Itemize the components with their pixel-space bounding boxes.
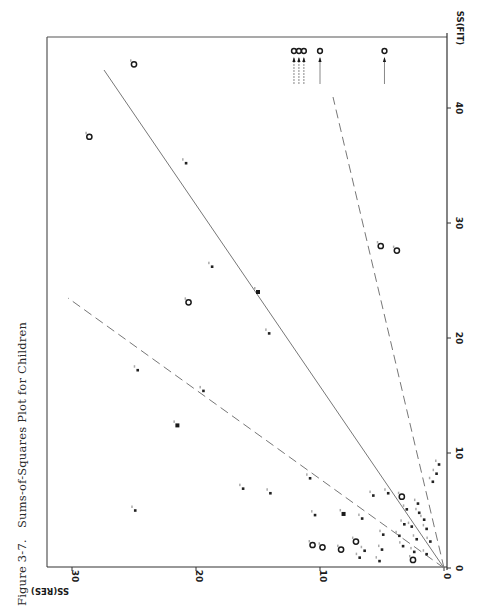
data-point: [438, 463, 441, 466]
svg-text:20: 20: [454, 332, 464, 345]
svg-text:10: 10: [454, 447, 464, 460]
point-label-mark: [358, 514, 360, 517]
y-tick-30: 30: [70, 567, 80, 582]
off-scale-point: [318, 49, 323, 84]
y-axis: 0 10 20 30 SS(RES): [31, 567, 452, 596]
data-point: [136, 369, 139, 372]
point-label-mark: [356, 553, 358, 556]
off-scale-points: [292, 49, 387, 84]
point-label-mark: [266, 488, 268, 491]
point-label-mark: [376, 556, 378, 559]
data-point: [361, 517, 364, 520]
point-label-mark: [173, 420, 175, 423]
arrow-up-icon: [297, 57, 300, 62]
data-point: [398, 535, 401, 538]
data-point: [87, 134, 92, 139]
point-label-mark: [420, 515, 422, 518]
data-point: [309, 477, 312, 480]
arrow-up-icon: [318, 57, 321, 62]
svg-text:0: 0: [454, 565, 464, 571]
point-label-mark: [378, 545, 380, 548]
arrow-up-icon: [302, 57, 305, 62]
plot-frame: [47, 33, 447, 570]
point-label-mark: [423, 524, 425, 527]
data-point: [363, 549, 366, 552]
data-point: [432, 480, 435, 483]
data-point: [410, 557, 415, 562]
off-scale-point: [292, 49, 297, 84]
data-point: [382, 533, 385, 536]
point-label-mark: [400, 519, 402, 522]
x-axis-title: SS(FIT): [455, 11, 465, 46]
point-label-mark: [239, 484, 241, 487]
point-label-mark: [410, 547, 412, 550]
data-point: [310, 542, 315, 547]
point-label-mark: [311, 510, 313, 512]
data-point: [320, 545, 325, 550]
data-point: [378, 243, 383, 248]
point-label-mark: [408, 522, 410, 525]
point-label-mark: [254, 287, 256, 290]
data-point: [202, 390, 205, 393]
point-label-mark: [85, 132, 87, 135]
point-label-mark: [369, 491, 371, 494]
point-label-mark: [403, 504, 405, 507]
point-label-mark: [199, 386, 201, 389]
point-label-mark: [413, 534, 415, 537]
data-point: [268, 332, 271, 335]
point-label-mark: [361, 546, 363, 549]
point-label-mark: [409, 555, 411, 558]
figure-title: Sums-of-Squares Plot for Children: [15, 321, 29, 528]
point-label-mark: [185, 297, 187, 300]
x-tick-20: 20: [447, 332, 464, 345]
x-tick-40: 40: [447, 102, 464, 115]
point-label-mark: [426, 537, 428, 540]
point-label-mark: [208, 262, 210, 265]
point-label-mark: [423, 549, 425, 552]
point-label-mark: [398, 492, 400, 495]
point-label-mark: [306, 473, 308, 476]
data-point: [256, 290, 260, 294]
point-label-mark: [340, 509, 342, 512]
data-point: [413, 551, 416, 554]
data-point: [211, 265, 214, 268]
data-point: [358, 556, 361, 559]
data-point: [423, 518, 426, 521]
point-label-mark: [265, 328, 267, 331]
point-label-mark: [131, 506, 133, 509]
x-tick-30: 30: [447, 217, 464, 230]
svg-text:10: 10: [318, 570, 328, 583]
data-point: [417, 502, 420, 505]
arrow-up-icon: [292, 57, 295, 62]
point-label-mark: [134, 365, 136, 368]
data-point: [394, 248, 399, 253]
point-label-mark: [395, 531, 397, 534]
x-tick-0: 0: [447, 565, 464, 571]
x-axis: 0 10 20 30 40 SS(FIT): [447, 11, 465, 571]
point-label-mark: [377, 241, 379, 244]
point-label-mark: [399, 541, 401, 544]
data-point: [403, 523, 406, 526]
point-label-mark: [352, 537, 354, 540]
data-point: [415, 538, 418, 541]
point-label-mark: [337, 545, 339, 548]
svg-text:0: 0: [442, 573, 452, 579]
data-point: [410, 525, 413, 528]
off-scale-point: [297, 49, 302, 84]
figure-number: Figure 3-7.: [15, 539, 29, 606]
data-point: [175, 423, 179, 427]
data-point: [186, 300, 191, 305]
data-point: [131, 62, 136, 67]
point-label-mark: [393, 246, 395, 249]
x-tick-10: 10: [447, 447, 464, 460]
off-scale-point: [301, 49, 306, 84]
solid-reference-line: [104, 70, 444, 568]
svg-text:40: 40: [454, 102, 464, 115]
data-point: [425, 553, 428, 556]
data-point: [425, 528, 428, 531]
y-tick-10: 10: [318, 567, 328, 582]
data-point: [435, 472, 438, 475]
data-point: [406, 508, 409, 511]
off-scale-point: [382, 49, 387, 84]
data-point: [381, 548, 384, 551]
